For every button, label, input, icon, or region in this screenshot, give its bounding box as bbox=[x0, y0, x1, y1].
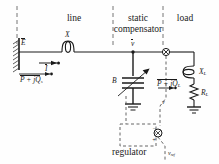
load-ground-symbol bbox=[187, 107, 201, 113]
section-title-static-compensator-line1: static bbox=[113, 14, 163, 24]
section-title-static-compensator-line2: compensator bbox=[110, 25, 166, 35]
bus-voltage-label: v bbox=[131, 40, 134, 48]
source-voltage-label: E bbox=[21, 39, 26, 47]
reference-voltage-label: vref bbox=[168, 150, 175, 157]
regulator-block bbox=[120, 124, 156, 146]
line-current-arrow bbox=[39, 61, 60, 65]
susceptance-label: B bbox=[112, 77, 117, 85]
source-power-label: P + jQs bbox=[20, 76, 43, 85]
source-power-expression: P + jQ bbox=[20, 75, 41, 84]
line-current-symbol: I bbox=[45, 65, 48, 73]
load-resistor bbox=[190, 84, 198, 100]
load-power-subscript: L bbox=[178, 83, 181, 88]
feedback-signal-path bbox=[160, 56, 166, 126]
source-power-subscript: s bbox=[41, 79, 43, 84]
regulator-caption: regulator bbox=[112, 148, 146, 158]
load-resistance-label: RL bbox=[201, 89, 208, 98]
load-inductor bbox=[183, 66, 194, 78]
line-current-label: I bbox=[45, 65, 48, 73]
load-power-expression: P + jQ bbox=[157, 79, 178, 88]
compensator-ground-symbol bbox=[125, 104, 141, 110]
reference-voltage-subscript: ref bbox=[171, 152, 175, 157]
section-title-line: line bbox=[52, 14, 96, 24]
section-title-load: load bbox=[168, 14, 202, 24]
load-power-label: P + jQL bbox=[157, 80, 181, 89]
source-bus-symbol bbox=[13, 38, 19, 72]
feedback-signal-label: v bbox=[162, 99, 165, 105]
load-reactance-subscript: L bbox=[204, 71, 207, 76]
load-reactance-label: XL bbox=[199, 68, 206, 77]
line-reactance-label: X bbox=[65, 31, 70, 39]
load-measurement-node bbox=[162, 48, 169, 55]
summing-plus-sign: + bbox=[152, 137, 156, 143]
summing-minus-sign: − bbox=[152, 125, 156, 131]
line-reactance-inductor bbox=[62, 41, 74, 52]
bus-voltage-symbol: v bbox=[131, 40, 134, 48]
power-system-single-line-diagram: line static compensator load E X I P + j… bbox=[0, 0, 219, 164]
source-voltage-symbol: E bbox=[21, 39, 26, 47]
reference-input-path bbox=[158, 137, 165, 160]
load-resistance-subscript: L bbox=[206, 92, 209, 97]
